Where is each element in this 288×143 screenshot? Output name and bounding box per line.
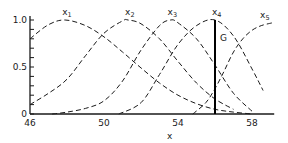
curve-label-x4: x4 <box>212 7 221 19</box>
marker-label: G <box>220 33 227 43</box>
y-tick-label: 0.5 <box>13 62 27 72</box>
x-tick-label: 46 <box>24 118 36 128</box>
x-tick-label: 50 <box>98 118 110 128</box>
x-tick-label: 54 <box>172 118 184 128</box>
x-tick-label: 58 <box>246 118 258 128</box>
axes <box>30 16 274 114</box>
y-ticks: 00.51.0 <box>13 15 34 119</box>
curve-label-x5: x5 <box>260 10 269 22</box>
curve-label-x1: x1 <box>62 7 71 19</box>
x-ticks: 46505458 <box>24 118 258 128</box>
y-tick-label: 1.0 <box>13 15 28 25</box>
curves: x1x2x3x4x5 <box>30 7 272 114</box>
membership-chart: 00.51.0 46505458 x1x2x3x4x5 G x <box>0 0 288 143</box>
curve-label-x3: x3 <box>168 7 177 19</box>
curve-x1 <box>30 20 252 114</box>
curve-x2 <box>30 19 234 109</box>
x-axis-label: x <box>167 131 173 141</box>
curve-label-x2: x2 <box>125 7 134 19</box>
curve-x5 <box>193 23 273 114</box>
